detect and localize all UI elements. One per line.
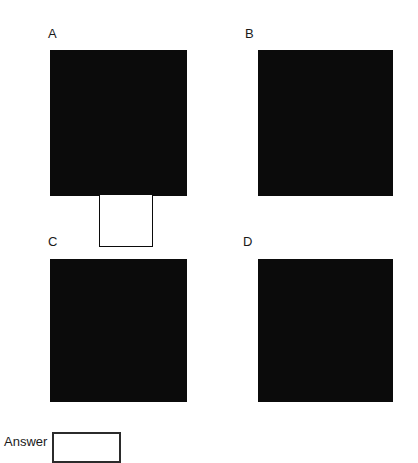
option-a-inner-square xyxy=(99,194,153,247)
answer-sheet: A B C D Answer xyxy=(0,0,418,463)
answer-label: Answer xyxy=(4,435,47,449)
option-label-b: B xyxy=(245,27,254,40)
answer-input-box[interactable] xyxy=(52,432,121,463)
option-label-c: C xyxy=(48,235,58,248)
option-label-a: A xyxy=(48,27,57,40)
option-a-outer-square xyxy=(50,50,187,196)
option-c-outer-square xyxy=(50,259,187,402)
option-d-outer-square xyxy=(258,259,393,402)
answer-row: Answer xyxy=(0,424,418,463)
option-b-outer-square xyxy=(258,50,393,196)
option-label-d: D xyxy=(243,235,253,248)
